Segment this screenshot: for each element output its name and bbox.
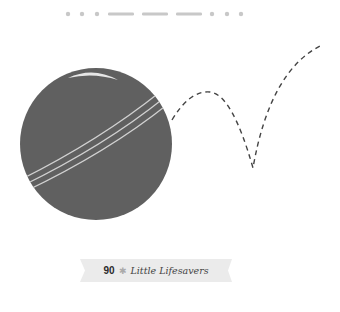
item-number: 90: [103, 265, 114, 276]
bounce-trajectory: [172, 45, 322, 168]
caption-ribbon: 90 ✱ Little Lifesavers: [80, 259, 232, 282]
morse-code-sos: [66, 12, 243, 16]
caption-title: Little Lifesavers: [131, 265, 209, 276]
star-icon: ✱: [119, 266, 127, 276]
ball-icon: [20, 68, 172, 220]
